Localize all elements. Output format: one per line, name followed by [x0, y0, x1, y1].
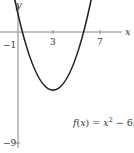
tick-label-x-neg1: −1: [3, 40, 16, 50]
x-axis-label: x: [125, 26, 131, 37]
tick-label-y-neg9: −9: [3, 138, 17, 148]
tick-label-x-3: 3: [50, 37, 56, 47]
function-label: f(x) = x2 − 6x: [72, 116, 134, 128]
tick-label-x-7: 7: [97, 37, 103, 47]
function-graph: y x −1 3 7 −9 f(x) = x2 − 6x: [0, 0, 134, 153]
